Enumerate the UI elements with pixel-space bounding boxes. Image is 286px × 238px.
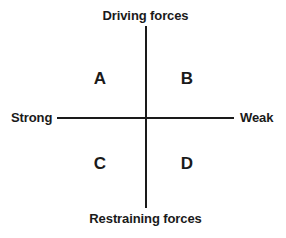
horizontal-axis-right-label: Weak xyxy=(240,111,273,124)
vertical-axis-bottom-label: Restraining forces xyxy=(0,212,286,225)
quadrant-label-a: A xyxy=(87,70,113,87)
quadrant-diagram: Driving forces Restraining forces Strong… xyxy=(0,0,286,238)
horizontal-axis-line xyxy=(57,117,234,119)
quadrant-label-d: D xyxy=(174,155,200,172)
quadrant-label-b: B xyxy=(174,70,200,87)
quadrant-label-c: C xyxy=(87,155,113,172)
vertical-axis-top-label: Driving forces xyxy=(0,9,286,22)
horizontal-axis-left-label: Strong xyxy=(11,111,52,124)
